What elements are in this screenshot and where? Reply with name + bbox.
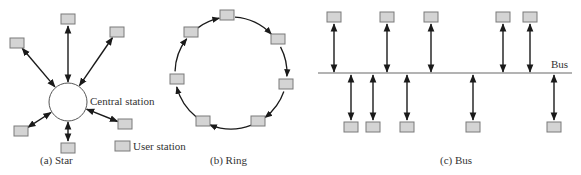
ring-link — [177, 87, 197, 117]
network-topologies-diagram: Central station User station Bus (a) Sta… — [0, 0, 581, 175]
caption-bus: (c) Bus — [440, 154, 472, 167]
star-user-station — [14, 126, 28, 136]
star-topology — [10, 14, 132, 153]
ring-user-station — [271, 34, 285, 44]
ring-link — [210, 125, 252, 129]
ring-user-station — [220, 10, 234, 20]
star-link — [79, 38, 112, 86]
ring-link — [198, 18, 220, 28]
caption-ring: (b) Ring — [210, 154, 247, 167]
bus-user-station — [366, 122, 380, 132]
ring-link — [235, 17, 271, 34]
bus-user-station — [327, 12, 341, 22]
bus-user-station — [344, 122, 358, 132]
ring-user-station — [279, 79, 293, 89]
bus-label: Bus — [551, 58, 568, 70]
star-user-station — [61, 143, 75, 153]
legend-user-station-icon — [115, 141, 130, 151]
ring-link — [175, 39, 187, 72]
bus-user-station — [400, 122, 414, 132]
bus-topology — [318, 12, 572, 132]
bus-user-station — [496, 12, 510, 22]
star-link — [22, 48, 55, 87]
caption-star: (a) Star — [40, 154, 73, 167]
ring-link — [265, 92, 284, 118]
star-user-station — [10, 38, 24, 48]
star-user-station — [118, 119, 132, 129]
star-link — [28, 113, 51, 128]
legend-user-station-label: User station — [133, 140, 186, 152]
ring-user-station — [196, 116, 210, 126]
bus-user-station — [466, 122, 480, 132]
bus-user-station — [380, 12, 394, 22]
bus-user-station — [547, 122, 561, 132]
bus-user-station — [424, 12, 438, 22]
star-user-station — [61, 14, 75, 24]
star-user-station — [110, 27, 124, 37]
ring-topology — [170, 10, 293, 129]
central-station-node — [49, 83, 87, 121]
ring-user-station — [184, 27, 198, 37]
bus-user-station — [523, 12, 537, 22]
ring-user-station — [251, 116, 265, 126]
central-station-label: Central station — [90, 95, 155, 107]
ring-user-station — [170, 74, 184, 84]
ring-link — [281, 47, 287, 76]
star-link — [87, 109, 118, 121]
